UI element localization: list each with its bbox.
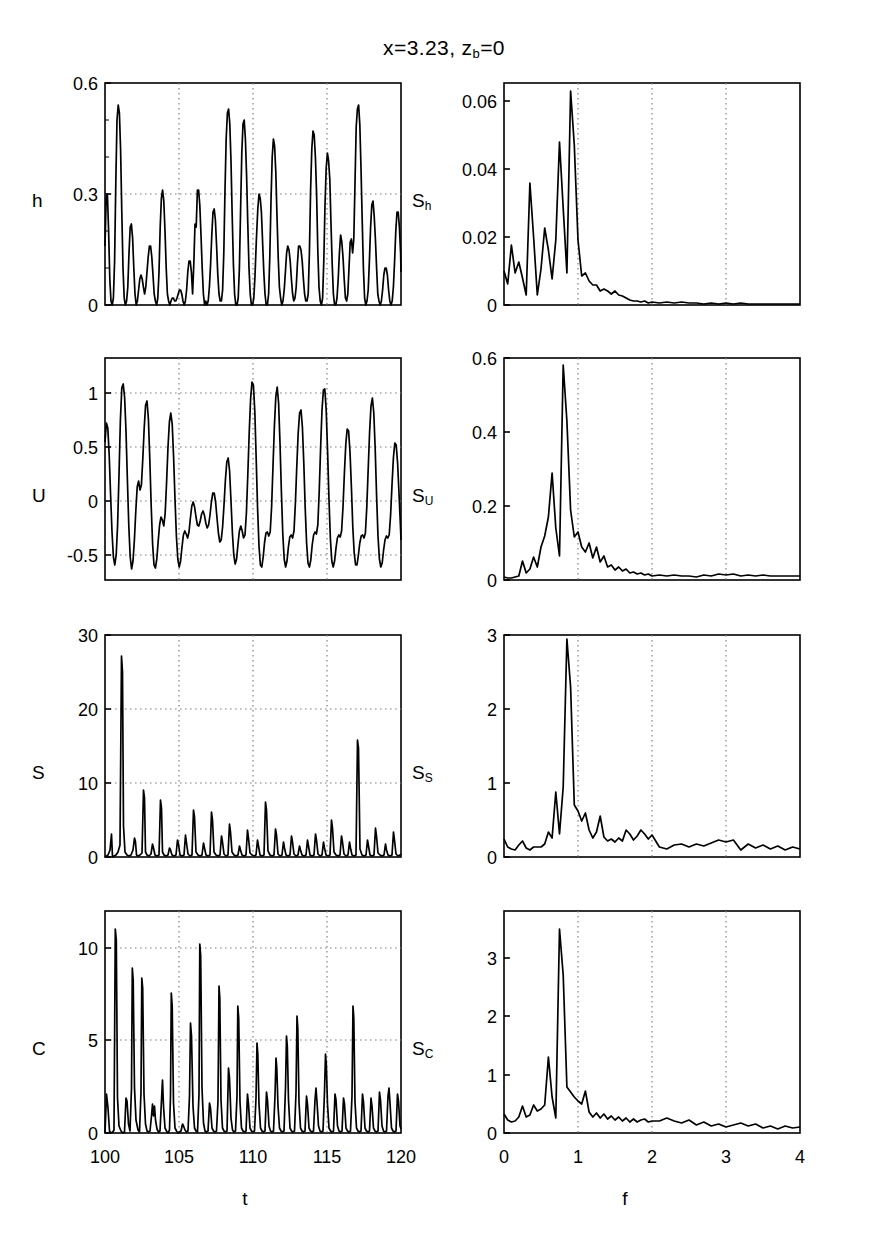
panel-SU-yticklabels: 0.6 0.4 0.2 0	[472, 349, 497, 591]
panel-Sh: 0.06 0.04 0.02 0	[420, 60, 888, 340]
xlabel-f: f	[565, 1188, 685, 1210]
panel-SS: 3 2 1 0	[420, 612, 888, 892]
ytick-SU-1: 0.2	[472, 497, 497, 517]
figure-title: x=3.23, zb=0	[0, 36, 888, 61]
panel-C-xticklabels: 100 105 110 115 120	[90, 1147, 416, 1167]
panel-h-yticklabels: 0.6 0.3 0	[73, 74, 98, 316]
title-prefix: x=3.23, z	[383, 36, 472, 59]
ytick-h-0: 0	[88, 296, 98, 316]
ytick-SC-1: 1	[487, 1066, 497, 1086]
ytick-h-2: 0.6	[73, 74, 98, 94]
xtick-f-4: 4	[795, 1147, 805, 1167]
panel-U-yticklabels: 1 0.5 0 -0.5	[67, 384, 98, 566]
ytick-SS-2: 2	[487, 700, 497, 720]
ytick-SS-0: 0	[487, 848, 497, 868]
panel-Sh-plotarea	[504, 83, 800, 305]
ytick-SU-3: 0.6	[472, 349, 497, 369]
title-suffix: =0	[480, 36, 505, 59]
panel-C-plotarea	[105, 911, 401, 1133]
ytick-SS-3: 3	[487, 626, 497, 646]
ytick-Sh-1: 0.02	[462, 228, 497, 248]
panel-U-plotarea	[105, 358, 401, 580]
panel-S-yticklabels: 30 20 10 0	[78, 626, 98, 868]
ytick-C-1: 5	[88, 1031, 98, 1051]
ytick-S-3: 30	[78, 626, 98, 646]
ytick-SC-2: 2	[487, 1007, 497, 1027]
ytick-C-2: 10	[78, 939, 98, 959]
panel-SC-plotarea	[504, 911, 800, 1133]
ytick-U-1: 0	[88, 492, 98, 512]
xlabel-t: t	[185, 1188, 305, 1210]
ytick-S-1: 10	[78, 774, 98, 794]
ytick-h-1: 0.3	[73, 185, 98, 205]
panel-SC: 3 2 1 0 0 1 2 3 4	[420, 888, 888, 1188]
panel-S: 30 20 10 0	[0, 612, 420, 892]
ytick-U-2: 0.5	[73, 438, 98, 458]
panel-Sh-yticklabels: 0.06 0.04 0.02 0	[462, 92, 497, 316]
panel-SC-xticklabels: 0 1 2 3 4	[499, 1147, 805, 1167]
panel-SS-yticklabels: 3 2 1 0	[487, 626, 497, 868]
xtick-f-2: 2	[647, 1147, 657, 1167]
xtick-t-1: 105	[164, 1147, 194, 1167]
panel-S-plotarea	[105, 635, 401, 857]
ytick-C-0: 0	[88, 1124, 98, 1144]
panel-SU: 0.6 0.4 0.2 0	[420, 335, 888, 615]
figure-container: x=3.23, zb=0 h U S C Sh SU SS SC t f	[0, 0, 888, 1247]
xtick-t-0: 100	[90, 1147, 120, 1167]
xtick-f-3: 3	[721, 1147, 731, 1167]
xtick-f-0: 0	[499, 1147, 509, 1167]
panel-C: 10 5 0 100 105 110 115 120	[0, 888, 420, 1188]
ytick-S-2: 20	[78, 700, 98, 720]
xtick-t-3: 115	[313, 1147, 342, 1167]
panel-h: 0.6 0.3 0	[0, 60, 420, 340]
xtick-t-2: 110	[239, 1147, 268, 1167]
ytick-S-0: 0	[88, 848, 98, 868]
panel-h-plotarea	[105, 83, 401, 305]
panel-SU-plotarea	[504, 358, 800, 580]
ytick-U-0: -0.5	[67, 546, 98, 566]
ytick-SU-2: 0.4	[472, 423, 497, 443]
ytick-Sh-3: 0.06	[462, 92, 497, 112]
xtick-t-4: 120	[386, 1147, 416, 1167]
ytick-U-3: 1	[88, 384, 98, 404]
panel-SS-plotarea	[504, 635, 800, 857]
xtick-f-1: 1	[573, 1147, 583, 1167]
ytick-SC-3: 3	[487, 949, 497, 969]
ytick-Sh-0: 0	[487, 296, 497, 316]
panel-U: 1 0.5 0 -0.5	[0, 335, 420, 615]
ytick-Sh-2: 0.04	[462, 160, 497, 180]
ytick-SC-0: 0	[487, 1124, 497, 1144]
panel-SC-yticklabels: 3 2 1 0	[487, 949, 497, 1144]
title-subscript: b	[473, 46, 481, 61]
ytick-SS-1: 1	[487, 774, 497, 794]
ytick-SU-0: 0	[487, 571, 497, 591]
panel-C-yticklabels: 10 5 0	[78, 939, 98, 1144]
